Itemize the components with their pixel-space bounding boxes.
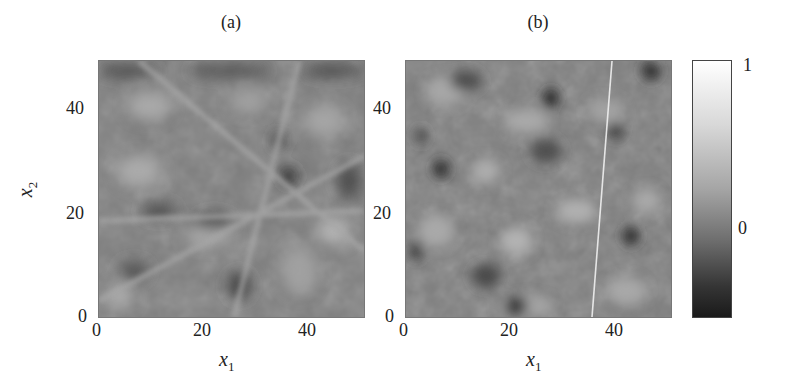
panel-b-ytick-40: 40 [373, 99, 391, 117]
panel-b-xtick-40: 40 [605, 321, 623, 339]
panel-b-ytick-0: 0 [385, 307, 394, 325]
panel-b-xtick-20: 20 [500, 321, 518, 339]
colorbar-tick-0: 0 [738, 219, 747, 237]
panel-a-xtick-20: 20 [193, 321, 211, 339]
colorbar-tick-1: 1 [743, 56, 752, 74]
panel-a-ylabel: x2 [14, 182, 41, 197]
panel-b-heatmap [405, 60, 672, 318]
panel-b-xlabel: x1 [526, 348, 541, 375]
panel-a-title: (a) [201, 12, 261, 33]
panel-a-ytick-0: 0 [78, 307, 87, 325]
panel-b-ytick-20: 20 [373, 204, 391, 222]
field-b-image [406, 61, 671, 317]
colorbar [692, 60, 732, 318]
panel-b-xtick-0: 0 [399, 321, 408, 339]
panel-b-title: (b) [508, 12, 568, 33]
panel-a-heatmap [98, 60, 365, 318]
panel-a-xtick-0: 0 [92, 321, 101, 339]
panel-a-ytick-40: 40 [66, 99, 84, 117]
field-a-image [99, 61, 364, 317]
panel-a-ytick-20: 20 [66, 204, 84, 222]
panel-a-xtick-40: 40 [298, 321, 316, 339]
panel-a-xlabel: x1 [219, 348, 234, 375]
